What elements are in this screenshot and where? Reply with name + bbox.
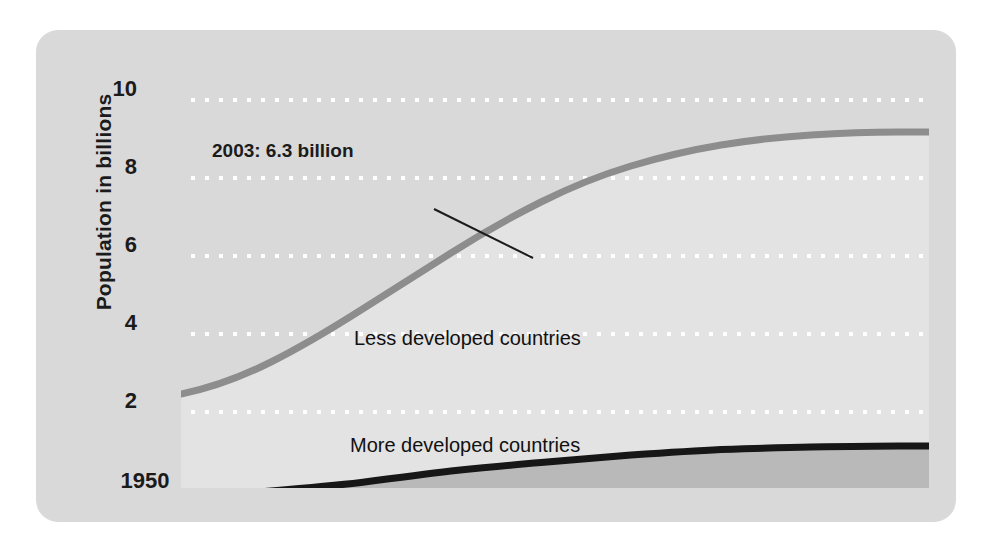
y-tick-label-10: 10: [91, 76, 137, 102]
area-label-more-developed: More developed countries: [350, 434, 580, 457]
area-label-less-developed: Less developed countries: [354, 327, 581, 350]
annotation-2003-label: 2003: 6.3 billion: [212, 140, 354, 162]
y-tick-label-8: 8: [91, 154, 137, 180]
y-tick-label-6: 6: [91, 232, 137, 258]
chart-card: Population in billions 10 8 6 4 2 1950 1…: [36, 30, 956, 522]
population-growth-chart: Population in billions 10 8 6 4 2 1950 1…: [0, 0, 1002, 552]
y-axis-title: Population in billions: [92, 72, 116, 332]
y-tick-label-4: 4: [91, 310, 137, 336]
x-tick-label-1950: 1950: [100, 468, 190, 494]
plot-area: [181, 76, 929, 488]
chart-svg: [181, 76, 929, 488]
y-tick-label-2: 2: [91, 388, 137, 414]
